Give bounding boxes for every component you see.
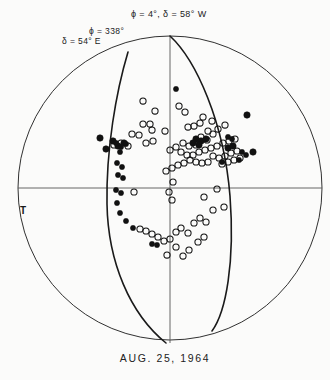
data-point-open-circle	[222, 122, 228, 128]
data-point-filled-circle	[244, 112, 250, 118]
data-point-filled-circle	[97, 135, 103, 141]
data-point-open-circle	[152, 108, 158, 114]
data-point-star	[229, 136, 235, 142]
data-point-star	[117, 149, 123, 155]
data-point-open-circle	[210, 153, 216, 159]
data-point-open-circle	[214, 143, 220, 149]
nodal-plane-b-dip-label: δ = 54° E	[62, 36, 101, 46]
data-point-open-circle	[181, 160, 187, 166]
data-point-open-circle	[201, 194, 207, 200]
nodal-plane-plane-A	[170, 36, 231, 331]
data-point-open-circle	[143, 228, 149, 234]
data-point-open-circle	[162, 128, 168, 134]
data-point-filled-circle	[230, 143, 236, 149]
data-point-open-circle	[197, 120, 203, 126]
data-point-filled-circle	[196, 142, 202, 148]
data-point-star	[173, 86, 179, 92]
data-point-open-circle	[180, 253, 186, 259]
data-point-open-circle	[136, 132, 142, 138]
nodal-plane-b-strike-label: ϕ = 338°	[89, 26, 124, 36]
data-point-filled-circle	[203, 136, 209, 142]
data-point-star	[130, 225, 136, 231]
data-point-star	[118, 190, 124, 196]
data-point-star	[114, 160, 120, 166]
data-point-open-circle	[129, 131, 135, 137]
data-point-open-circle	[203, 219, 209, 225]
data-point-open-circle	[161, 238, 167, 244]
data-point-open-circle	[185, 230, 191, 236]
data-point-open-circle	[143, 140, 149, 146]
data-point-open-circle	[173, 244, 179, 250]
figure-caption: AUG. 25, 1964	[0, 352, 330, 364]
data-point-open-circle	[193, 159, 199, 165]
data-point-open-circle	[178, 149, 184, 155]
data-point-open-circle	[195, 239, 201, 245]
data-point-star	[113, 187, 119, 193]
data-point-open-circle	[214, 186, 220, 192]
data-point-open-circle	[196, 149, 202, 155]
data-point-open-circle	[199, 160, 205, 166]
tension-axis-label: T	[20, 205, 27, 216]
data-point-open-circle	[205, 159, 211, 165]
data-point-star	[114, 200, 120, 206]
data-point-open-circle	[147, 121, 153, 127]
data-point-open-circle	[185, 124, 191, 130]
data-point-star	[123, 141, 129, 147]
data-point-star	[219, 159, 225, 165]
data-point-open-circle	[155, 234, 161, 240]
data-point-star	[154, 242, 160, 248]
data-point-open-circle	[137, 226, 143, 232]
data-point-open-circle	[221, 204, 227, 210]
data-point-star	[115, 172, 121, 178]
focal-mechanism-figure: ϕ = 4°, δ = 58° W ϕ = 338° δ = 54° E T A…	[0, 0, 330, 380]
data-point-star	[119, 164, 125, 170]
data-point-open-circle	[140, 121, 146, 127]
data-point-star	[236, 157, 242, 163]
data-point-open-circle	[187, 157, 193, 163]
data-point-open-circle	[176, 103, 182, 109]
stereonet-plot	[0, 0, 330, 380]
data-point-open-circle	[175, 162, 181, 168]
data-point-open-circle	[186, 247, 192, 253]
data-point-star	[243, 152, 249, 158]
data-point-open-circle	[201, 234, 207, 240]
data-point-open-circle	[170, 179, 176, 185]
data-point-open-circle	[180, 140, 186, 146]
data-point-open-circle	[202, 147, 208, 153]
data-point-open-circle	[210, 131, 216, 137]
data-point-open-circle	[210, 207, 216, 213]
data-point-filled-circle	[190, 140, 196, 146]
data-point-open-circle	[197, 215, 203, 221]
data-point-open-circle	[131, 189, 137, 195]
data-point-star	[117, 210, 123, 216]
data-point-filled-circle	[250, 149, 256, 155]
data-point-open-circle	[150, 138, 156, 144]
data-point-open-circle	[209, 118, 215, 124]
data-point-star	[113, 140, 119, 146]
data-point-open-circle	[208, 145, 214, 151]
data-point-open-circle	[149, 127, 155, 133]
data-point-open-circle	[140, 98, 146, 104]
data-point-open-circle	[182, 109, 188, 115]
data-point-open-circle	[164, 252, 170, 258]
data-point-open-circle	[191, 220, 197, 226]
data-point-open-circle	[166, 189, 172, 195]
data-point-open-circle	[173, 144, 179, 150]
data-point-star	[149, 241, 155, 247]
data-point-open-circle	[173, 229, 179, 235]
nodal-plane-a-label: ϕ = 4°, δ = 58° W	[131, 9, 207, 19]
data-point-star	[120, 175, 126, 181]
data-point-star	[123, 218, 129, 224]
data-point-open-circle	[163, 168, 169, 174]
data-point-star	[118, 144, 124, 150]
data-point-open-circle	[149, 231, 155, 237]
data-point-filled-circle	[103, 146, 109, 152]
nodal-plane-plane-B	[107, 52, 166, 343]
data-point-open-circle	[200, 114, 206, 120]
data-point-open-circle	[191, 123, 197, 129]
